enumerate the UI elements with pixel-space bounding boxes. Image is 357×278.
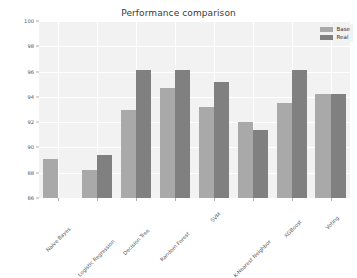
y-gridline: [39, 46, 350, 47]
y-tick-label: 90: [27, 144, 34, 150]
bar-base: [82, 170, 97, 198]
legend-label: Real: [336, 34, 348, 40]
y-tick-label: 92: [27, 119, 34, 125]
x-tick-mark: [58, 198, 59, 201]
bar-base: [43, 159, 58, 198]
bar-real: [331, 94, 346, 198]
x-tick-label-text: Voting: [324, 215, 340, 231]
x-tick-label-text: Random Forest: [159, 231, 191, 263]
x-tick-label-text: Naive Bayes: [45, 226, 72, 253]
bar-real: [175, 70, 190, 198]
y-tick-label: 88: [27, 170, 34, 176]
legend-item-real[interactable]: Real: [320, 34, 350, 40]
chart-title: Performance comparison: [0, 8, 357, 18]
y-tick-label: 100: [24, 18, 34, 24]
bar-real: [136, 70, 151, 198]
y-tick-label: 86: [27, 195, 34, 201]
y-tick-label: 94: [27, 94, 34, 100]
x-axis: Naive BayesLogistic RegressionDecision T…: [39, 198, 350, 258]
y-tick-label: 98: [27, 43, 34, 49]
legend-swatch-icon: [320, 35, 333, 40]
y-gridline: [39, 21, 350, 22]
bar-real: [97, 155, 112, 198]
bar-real: [292, 70, 307, 198]
x-tick-mark: [175, 198, 176, 201]
legend-label: Base: [336, 26, 350, 32]
x-tick-mark: [136, 198, 137, 201]
y-tick-label: 96: [27, 69, 34, 75]
x-tick-mark: [253, 198, 254, 201]
x-tick-label-text: K-Nearest Neighbor: [232, 239, 272, 278]
x-tick-mark: [97, 198, 98, 201]
x-tick-mark: [214, 198, 215, 201]
x-tick-label-text: Logistic Regression: [77, 238, 116, 277]
chart-legend: BaseReal: [317, 24, 353, 42]
x-tick-label: SVM: [217, 203, 229, 215]
bar-base: [315, 94, 330, 198]
x-tick-mark: [331, 198, 332, 201]
bar-base: [238, 122, 253, 198]
bar-real: [253, 130, 268, 198]
x-tick-label: Naive Bayes: [68, 203, 95, 230]
y-axis: 86889092949698100: [0, 21, 39, 198]
bar-base: [160, 88, 175, 198]
plot-area: [39, 21, 350, 198]
bar-base: [277, 103, 292, 198]
x-gridline: [58, 21, 59, 198]
bar-base: [199, 107, 214, 198]
x-tick-mark: [292, 198, 293, 201]
bar-base: [121, 110, 136, 199]
legend-swatch-icon: [320, 27, 333, 32]
x-tick-label: Voting: [335, 203, 351, 219]
legend-item-base[interactable]: Base: [320, 26, 350, 32]
bar-real: [214, 82, 229, 198]
